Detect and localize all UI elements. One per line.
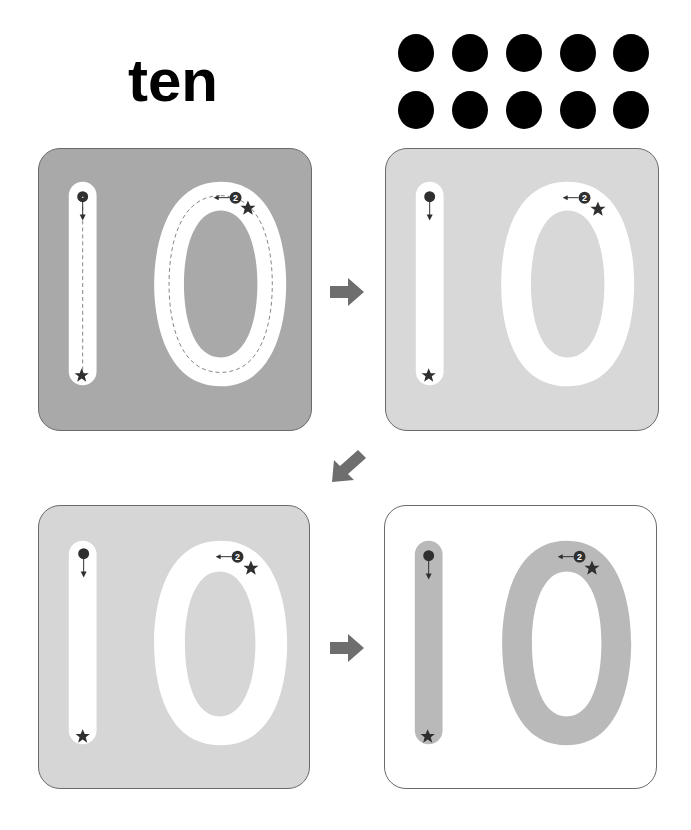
step-3-panel: 2 [38, 505, 310, 789]
arrow-down-left-icon [330, 448, 368, 484]
dot [613, 91, 649, 129]
svg-text:2: 2 [577, 552, 582, 562]
dot [452, 91, 488, 129]
dot [613, 34, 649, 72]
dot [506, 34, 542, 72]
step-1-panel: 2 [38, 148, 312, 431]
svg-text:2: 2 [235, 552, 240, 562]
dot [452, 34, 488, 72]
step-2-panel: 2 [385, 148, 659, 431]
arrow-right-icon [328, 276, 366, 308]
dot [398, 91, 434, 129]
arrow-right-icon [328, 632, 366, 664]
step-4-panel: 2 [384, 505, 657, 789]
counting-dots [0, 0, 691, 140]
stroke-1-marker [424, 191, 435, 202]
svg-text:2: 2 [582, 193, 587, 203]
svg-text:2: 2 [233, 193, 238, 203]
dot [506, 91, 542, 129]
dot [560, 34, 596, 72]
dot [560, 91, 596, 129]
dot [398, 34, 434, 72]
digit-zero-track [154, 182, 286, 386]
